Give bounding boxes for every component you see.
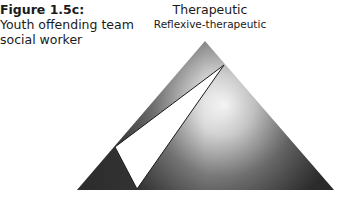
pyramid-diagram [0, 0, 345, 197]
outer-triangle-shade [77, 41, 334, 190]
